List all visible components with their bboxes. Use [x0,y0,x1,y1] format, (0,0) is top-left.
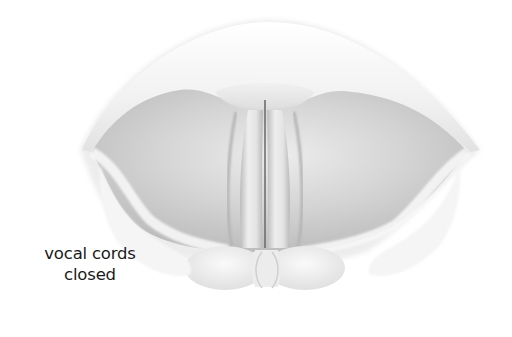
label-line-2: closed [20,264,160,285]
larynx-illustration [0,0,512,337]
vocal-cords-label: vocal cords closed [20,243,160,285]
label-line-1: vocal cords [20,243,160,264]
